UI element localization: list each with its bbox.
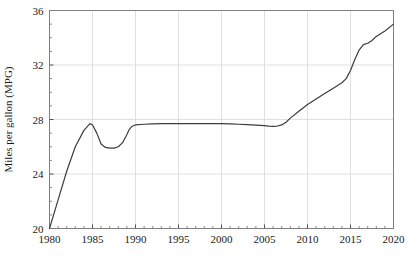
x-tick-label: 1995 [168,233,191,245]
y-tick-label: 32 [33,59,44,71]
y-tick-label: 24 [33,168,45,180]
x-tick-label: 1985 [82,233,105,245]
chart-canvas: 198019851990199520002005201020152020 202… [0,0,413,257]
x-tick-label: 2020 [383,233,406,245]
x-axis-tick-labels: 198019851990199520002005201020152020 [39,233,406,245]
y-tick-label: 36 [33,5,45,17]
x-tick-label: 2000 [211,233,234,245]
x-tick-label: 1990 [125,233,148,245]
y-axis-title: Miles per gallon (MPG) [2,66,15,172]
x-tick-label: 2015 [340,233,363,245]
x-tick-label: 2010 [297,233,320,245]
y-tick-label: 20 [33,223,45,235]
x-tick-label: 2005 [254,233,277,245]
fuel-economy-line-chart: 198019851990199520002005201020152020 202… [0,0,413,257]
chart-background [0,0,413,257]
y-tick-label: 28 [33,114,45,126]
